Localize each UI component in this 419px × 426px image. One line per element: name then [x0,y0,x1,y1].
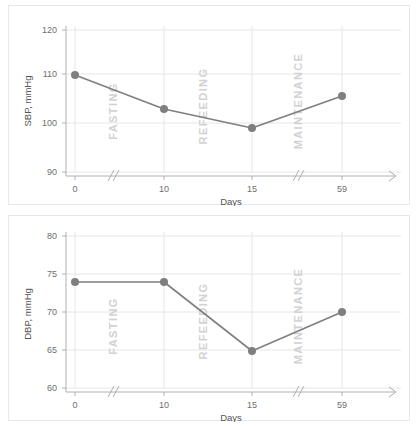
chart-panel-sbp: 120 110 100 90 0 10 15 59 SBP, mmHg Days… [8,5,410,205]
xtick-label-10: 10 [159,184,169,194]
dbp-data-point-day0 [71,278,79,286]
figure-root: 120 110 100 90 0 10 15 59 SBP, mmHg Days… [0,0,419,426]
xtick-label-59: 59 [337,184,347,194]
phase-label-refeeding: REFEEDING [197,68,209,145]
phase-label-refeeding: REFEEDING [197,283,209,360]
xtick-label-0: 0 [72,184,77,194]
ytick-label-65: 65 [47,345,57,355]
y-axis-title: SBP, mmHg [22,75,33,126]
ytick-label-100: 100 [42,118,57,128]
xtick-label-0: 0 [72,400,77,410]
xtick-label-15: 15 [247,184,257,194]
xtick-label-15: 15 [247,400,257,410]
ytick-label-60: 60 [47,383,57,393]
xtick-label-59: 59 [337,400,347,410]
x-axis-title: Days [220,196,242,206]
ytick-label-75: 75 [47,269,57,279]
sbp-data-point-day59 [338,92,346,100]
sbp-data-point-day15 [248,124,256,132]
phase-label-fasting: FASTING [107,297,119,354]
sbp-plot: 120 110 100 90 0 10 15 59 SBP, mmHg Days… [9,6,411,206]
sbp-data-point-day10 [160,105,168,113]
sbp-data-point-day0 [71,71,79,79]
ytick-label-90: 90 [47,167,57,177]
x-axis-title: Days [220,412,242,422]
ytick-label-110: 110 [43,69,57,79]
phase-label-maintenance: MAINTENANCE [292,53,304,150]
chart-panel-dbp: 80 75 70 65 60 0 10 15 59 DBP, mmHg Days… [8,215,410,421]
dbp-plot: 80 75 70 65 60 0 10 15 59 DBP, mmHg Days… [9,216,411,422]
dbp-data-point-day10 [160,278,168,286]
y-axis-title: DBP, mmHg [22,288,33,340]
ytick-label-80: 80 [47,231,57,241]
xtick-label-10: 10 [159,400,169,410]
ytick-label-70: 70 [47,307,57,317]
ytick-label-120: 120 [42,25,57,35]
phase-label-maintenance: MAINTENANCE [292,268,304,365]
dbp-data-point-day15 [248,347,256,355]
dbp-data-point-day59 [338,308,346,316]
